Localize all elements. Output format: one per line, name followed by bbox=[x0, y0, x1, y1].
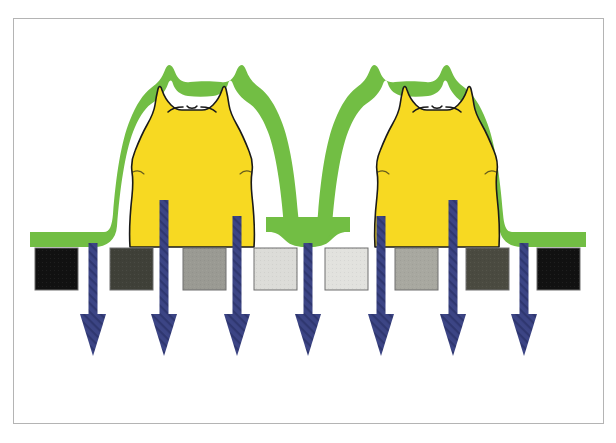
arrow-1-shaft bbox=[89, 243, 98, 314]
arrow-2-shaft bbox=[160, 200, 169, 314]
arrow-7-shaft bbox=[520, 243, 529, 314]
arrow-7-head bbox=[511, 314, 537, 356]
arrow-5-head bbox=[368, 314, 394, 356]
diagram-svg bbox=[0, 0, 616, 443]
pad-7-texture bbox=[466, 248, 509, 290]
arrow-4 bbox=[295, 243, 321, 356]
green-conformal-coating bbox=[30, 65, 586, 247]
arrow-3-shaft bbox=[233, 216, 242, 314]
pad-2-texture bbox=[110, 248, 153, 290]
pad-4-texture bbox=[254, 248, 297, 290]
arrow-1-head bbox=[80, 314, 106, 356]
figure-canvas bbox=[0, 0, 616, 443]
pad-8-texture bbox=[537, 248, 580, 290]
arrow-6-shaft bbox=[449, 200, 458, 314]
pad-1-texture bbox=[35, 248, 78, 290]
arrow-3-head bbox=[224, 314, 250, 356]
arrow-7 bbox=[511, 243, 537, 356]
arrow-4-head bbox=[295, 314, 321, 356]
arrow-5-shaft bbox=[377, 216, 386, 314]
arrow-2-head bbox=[151, 314, 177, 356]
arrow-6-head bbox=[440, 314, 466, 356]
pad-5-texture bbox=[325, 248, 368, 290]
pad-3-texture bbox=[183, 248, 226, 290]
arrow-1 bbox=[80, 243, 106, 356]
arrow-4-shaft bbox=[304, 243, 313, 314]
pad-6-texture bbox=[395, 248, 438, 290]
